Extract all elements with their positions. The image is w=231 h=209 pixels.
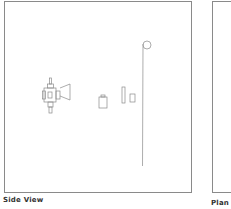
side-view-label: Side View [3, 196, 43, 204]
plan-view-label: Plan View [211, 199, 231, 207]
boom-stand-icon [143, 41, 152, 166]
tall-panel-icon [122, 87, 125, 103]
side-view-drawing [0, 0, 231, 209]
small-panel-icon [130, 94, 135, 102]
light-fixture-icon [43, 78, 71, 113]
battery-icon [99, 95, 107, 108]
